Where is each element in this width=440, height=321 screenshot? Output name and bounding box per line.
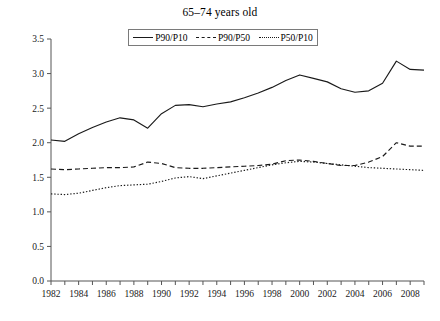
chart-container: 65–74 years old P90/P10 P90/P50 P50/P10 …: [0, 0, 440, 321]
x-tick-label: 1992: [180, 289, 199, 299]
x-tick-label: 2002: [318, 289, 337, 299]
x-tick-label: 1990: [152, 289, 171, 299]
y-tick-label: 3.5: [32, 34, 44, 44]
y-tick-label: 0.0: [32, 276, 44, 286]
y-axis: 0.00.51.01.52.02.53.03.5: [32, 34, 51, 286]
data-series-group: [51, 61, 424, 194]
x-tick-label: 2004: [345, 289, 364, 299]
y-tick-label: 1.5: [32, 173, 44, 183]
y-tick-label: 0.5: [32, 242, 44, 252]
x-tick-label: 1984: [69, 289, 88, 299]
series-line-p90-p50: [51, 143, 424, 170]
x-tick-label: 1986: [97, 289, 116, 299]
y-tick-label: 3.0: [32, 69, 44, 79]
x-tick-label: 1988: [124, 289, 143, 299]
x-tick-label: 2006: [373, 289, 392, 299]
x-axis: 1982198419861988199019921994199619982000…: [42, 281, 425, 299]
x-tick-label: 1998: [263, 289, 282, 299]
x-tick-label: 1994: [207, 289, 226, 299]
x-tick-label: 1996: [235, 289, 254, 299]
series-line-p90-p10: [51, 61, 424, 141]
y-tick-label: 2.0: [32, 138, 44, 148]
y-tick-label: 1.0: [32, 207, 44, 217]
x-tick-label: 1982: [42, 289, 61, 299]
x-tick-label: 2008: [401, 289, 420, 299]
x-tick-label: 2000: [290, 289, 309, 299]
y-tick-label: 2.5: [32, 104, 44, 114]
plot-area: 0.00.51.01.52.02.53.03.5 198219841986198…: [0, 0, 440, 321]
